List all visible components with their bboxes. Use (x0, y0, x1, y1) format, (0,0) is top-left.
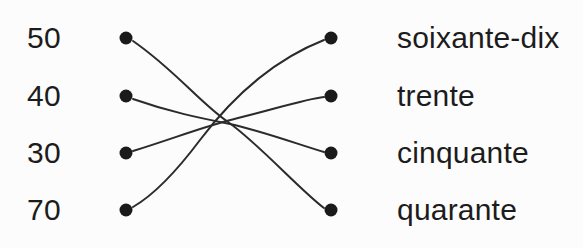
right-node-dot-quarante[interactable] (325, 204, 338, 217)
left-item-40[interactable]: 40 (27, 79, 118, 113)
right-item-soixante-dix[interactable]: soixante-dix (397, 21, 559, 55)
right-node-dot-soixante-dix[interactable] (325, 32, 338, 45)
left-node-dot-40[interactable] (120, 90, 133, 103)
right-column-words: soixante-dix trente cinquante quarante (397, 0, 583, 248)
left-item-50[interactable]: 50 (27, 21, 118, 55)
right-item-trente[interactable]: trente (397, 79, 475, 113)
left-item-70[interactable]: 70 (27, 193, 118, 227)
left-node-dot-30[interactable] (120, 147, 133, 160)
left-node-dot-50[interactable] (120, 32, 133, 45)
left-column-numbers: 50 40 30 70 (0, 0, 118, 248)
matching-exercise: 50 40 30 70 soixante-dix trente cinquant… (0, 0, 583, 248)
left-item-30[interactable]: 30 (27, 136, 118, 170)
right-item-quarante[interactable]: quarante (397, 193, 517, 227)
right-item-cinquante[interactable]: cinquante (397, 136, 529, 170)
right-node-dot-trente[interactable] (325, 90, 338, 103)
right-node-dot-cinquante[interactable] (325, 147, 338, 160)
left-node-dot-70[interactable] (120, 204, 133, 217)
